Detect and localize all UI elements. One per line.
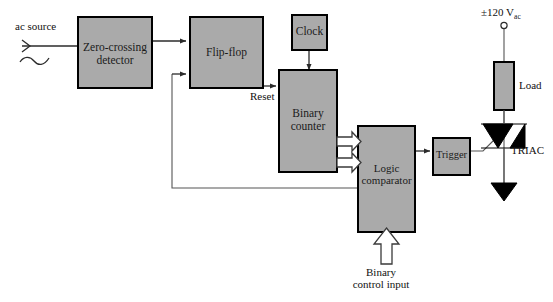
block-label-logic-comparator: Logic comparator	[355, 162, 418, 187]
label-supply-voltage: ±120 Vac	[481, 6, 521, 22]
block-label-binary-counter: Binary counter	[279, 107, 337, 133]
comparator-label-line1: Logic	[355, 162, 418, 174]
bus-arrow-icon-binary-control-input	[374, 228, 399, 264]
block-diagram-canvas: ac source Zero-crossing detector Flip-fl…	[0, 0, 553, 302]
sine-wave-icon	[20, 57, 49, 64]
arrow-terminal-icon	[491, 183, 517, 201]
block-label-load: Load	[519, 79, 542, 91]
block-load[interactable]	[494, 62, 514, 110]
block-label-trigger: Trigger	[430, 149, 473, 161]
terminal-circle-icon	[501, 22, 507, 28]
comparator-label-line2: comparator	[355, 174, 418, 186]
label-reset: Reset	[250, 90, 274, 102]
binary-control-input-line2: control input	[331, 278, 431, 290]
clock-label-line1: Clock	[292, 25, 327, 38]
block-label-flip-flop: Flip-flop	[190, 46, 263, 59]
supply-voltage-value: ±120 V	[481, 6, 514, 18]
label-triac: TRIAC	[511, 144, 544, 156]
block-label-clock: Clock	[292, 25, 327, 38]
flipflop-label-line1: Flip-flop	[190, 46, 263, 59]
wire-trigger-to-triac-gate	[470, 140, 494, 151]
counter-label-line1: Binary	[279, 107, 337, 120]
binary-control-input-line1: Binary	[331, 266, 431, 278]
zcd-label-line2: detector	[78, 54, 152, 67]
triac-triangle-left	[483, 124, 513, 148]
label-ac-source: ac source	[15, 20, 56, 32]
counter-label-line2: counter	[279, 120, 337, 133]
label-binary-control-input: Binary control input	[331, 266, 431, 291]
supply-voltage-subscript: ac	[514, 12, 521, 21]
trigger-label-line1: Trigger	[430, 149, 473, 161]
block-label-zero-crossing-detector: Zero-crossing detector	[78, 41, 152, 67]
zcd-label-line1: Zero-crossing	[78, 41, 152, 54]
